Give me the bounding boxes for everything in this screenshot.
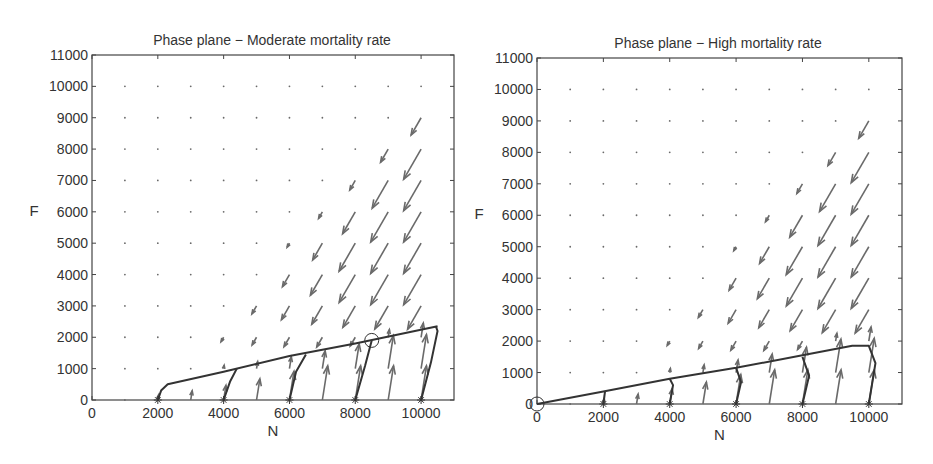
- y-tick-label: 9000: [502, 113, 533, 129]
- x-tick-label: 2000: [588, 409, 619, 425]
- x-tick-label: 6000: [274, 405, 305, 421]
- y-tick-label: 0: [80, 392, 88, 408]
- vector-field: [124, 85, 428, 400]
- chart-title: Phase plane − Moderate mortality rate: [153, 32, 391, 48]
- y-tick-label: 11000: [50, 47, 88, 63]
- axes-box: [92, 55, 454, 400]
- x-tick-label: 4000: [208, 405, 239, 421]
- y-tick-label: 0: [525, 396, 533, 412]
- y-tick-label: 1000: [502, 365, 533, 381]
- y-tick-label: 6000: [57, 204, 88, 220]
- y-tick-label: 8000: [502, 144, 533, 160]
- trajectory-line: [158, 326, 438, 400]
- start-asterisk-marker: [798, 400, 806, 408]
- plot-moderate-mortality: Phase plane − Moderate mortality rate010…: [29, 32, 454, 439]
- y-tick-label: 1000: [57, 361, 88, 377]
- start-asterisk-marker: [599, 400, 607, 408]
- y-axis-label: F: [474, 205, 483, 222]
- vector-field: [569, 89, 876, 405]
- x-tick-label: 0: [88, 405, 96, 421]
- trajectories: [537, 346, 875, 408]
- trajectory-line: [537, 346, 875, 404]
- y-tick-label: 3000: [57, 298, 88, 314]
- y-tick-label: 5000: [57, 235, 88, 251]
- axes-box: [537, 58, 902, 404]
- y-tick-label: 2000: [57, 329, 88, 345]
- y-tick-label: 2000: [502, 333, 533, 349]
- y-axis-label: F: [29, 202, 38, 219]
- x-tick-label: 4000: [654, 409, 685, 425]
- plot-high-mortality: Phase plane − High mortality rate0100020…: [474, 35, 902, 443]
- start-asterisk-marker: [351, 396, 359, 404]
- trajectories: [154, 326, 438, 404]
- y-tick-label: 6000: [502, 207, 533, 223]
- y-tick-label: 11000: [495, 50, 533, 66]
- x-axis-label: N: [714, 426, 725, 443]
- start-asterisk-marker: [285, 396, 293, 404]
- y-tick-label: 10000: [494, 81, 533, 97]
- y-tick-label: 5000: [502, 239, 533, 255]
- y-tick-label: 9000: [57, 110, 88, 126]
- x-tick-label: 10000: [849, 409, 888, 425]
- x-tick-label: 8000: [787, 409, 818, 425]
- y-tick-label: 3000: [502, 302, 533, 318]
- trajectory-line: [421, 326, 437, 400]
- y-tick-label: 7000: [502, 176, 533, 192]
- figure: Phase plane − Moderate mortality rate010…: [0, 0, 933, 464]
- start-asterisk-marker: [732, 400, 740, 408]
- y-tick-label: 8000: [57, 141, 88, 157]
- x-tick-label: 10000: [402, 405, 441, 421]
- x-tick-label: 8000: [340, 405, 371, 421]
- start-asterisk-marker: [220, 396, 228, 404]
- x-tick-label: 6000: [721, 409, 752, 425]
- start-asterisk-marker: [666, 400, 674, 408]
- y-tick-label: 4000: [502, 270, 533, 286]
- start-asterisk-marker: [154, 396, 162, 404]
- chart-title: Phase plane − High mortality rate: [614, 35, 822, 51]
- y-tick-label: 4000: [57, 267, 88, 283]
- start-asterisk-marker: [865, 400, 873, 408]
- start-asterisk-marker: [417, 396, 425, 404]
- x-tick-label: 2000: [142, 405, 173, 421]
- x-axis-label: N: [268, 422, 279, 439]
- y-tick-label: 7000: [57, 172, 88, 188]
- y-tick-label: 10000: [49, 78, 88, 94]
